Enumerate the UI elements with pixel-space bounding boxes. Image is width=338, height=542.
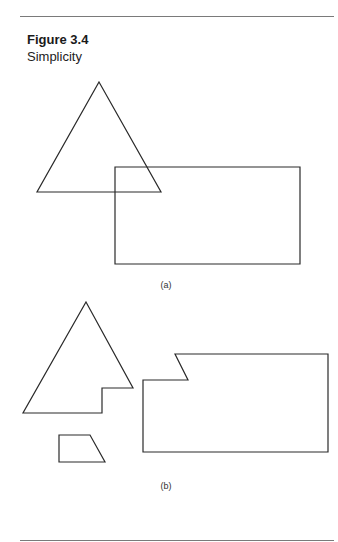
triangle-shape — [37, 82, 161, 192]
panel-b — [23, 302, 328, 462]
panel-b-label: (b) — [151, 481, 181, 491]
rectangle-shape — [115, 167, 300, 264]
trapezoid-shape — [59, 435, 105, 462]
panel-a — [37, 82, 300, 264]
notched-triangle-shape — [23, 302, 133, 413]
notched-rectangle-shape — [143, 354, 328, 452]
panel-a-label: (a) — [151, 280, 181, 290]
figure-canvas — [0, 0, 338, 542]
bottom-rule — [20, 540, 334, 541]
